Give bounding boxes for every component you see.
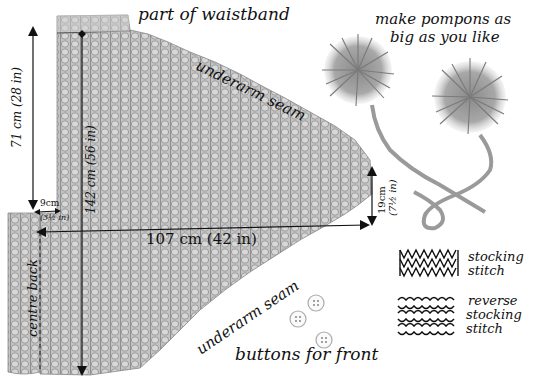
stocking-stitch-label-line2: stitch bbox=[468, 264, 505, 277]
cuff-in-label: (7½ in) bbox=[388, 179, 398, 216]
waistband bbox=[57, 15, 129, 32]
height-inner-label: 142 cm (56 in) bbox=[85, 125, 97, 214]
pompon-cord-right bbox=[414, 135, 491, 228]
step-in-label: (3½ in) bbox=[40, 214, 69, 222]
reverse-stitch-label-line3: stitch bbox=[466, 322, 503, 335]
stocking-stitch-label-line1: stocking bbox=[468, 250, 524, 263]
width-label: 107 cm (42 in) bbox=[146, 232, 257, 247]
buttons-illustration bbox=[290, 295, 332, 348]
pompon-left bbox=[322, 34, 394, 106]
button bbox=[308, 295, 324, 311]
buttons-label: buttons for front bbox=[235, 346, 378, 363]
pompons-label-line2: big as you like bbox=[390, 30, 500, 45]
diagram-canvas bbox=[0, 0, 546, 380]
reverse-stitch-label-line2: stocking bbox=[466, 308, 522, 321]
step-arrow bbox=[37, 211, 58, 212]
cuff-cm-label: 19cm bbox=[377, 186, 387, 214]
waistband-label: part of waistband bbox=[138, 6, 290, 23]
centre-back-label: centre back bbox=[26, 259, 39, 337]
step-cm-label: 9cm bbox=[40, 199, 59, 208]
stocking-stitch-swatch bbox=[398, 248, 458, 278]
reverse-stitch-label-line1: reverse bbox=[468, 294, 518, 307]
reverse-stocking-stitch-swatch bbox=[398, 298, 454, 335]
pompons-label-line1: make pompons as bbox=[375, 12, 511, 27]
button bbox=[290, 311, 306, 327]
height-outer-label: 71 cm (28 in) bbox=[11, 67, 23, 148]
pompon-right bbox=[432, 58, 508, 134]
knitted-garment-piece bbox=[8, 15, 372, 375]
